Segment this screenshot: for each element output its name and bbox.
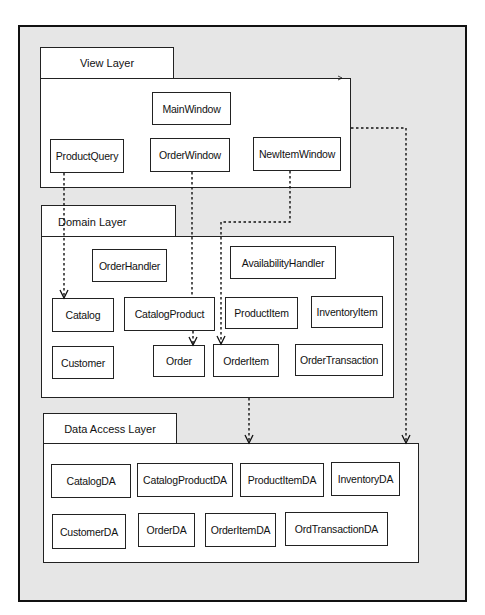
class-product-item-da[interactable]: ProductItemDA <box>240 463 324 497</box>
class-new-item-window[interactable]: NewItemWindow <box>253 137 341 171</box>
class-main-window[interactable]: MainWindow <box>152 92 231 125</box>
class-order-item[interactable]: OrderItem <box>213 344 279 377</box>
view-layer-tab: View Layer <box>40 47 174 79</box>
class-customer[interactable]: Customer <box>52 346 114 379</box>
class-catalog-product-da[interactable]: CatalogProductDA <box>137 463 233 497</box>
data-access-layer-tab: Data Access Layer <box>43 413 177 445</box>
class-ord-transaction-da[interactable]: OrdTransactionDA <box>285 512 388 546</box>
class-order-window[interactable]: OrderWindow <box>150 138 230 172</box>
class-product-item[interactable]: ProductItem <box>225 297 298 329</box>
domain-layer-tab: Domain Layer <box>41 205 176 238</box>
class-inventory-da[interactable]: InventoryDA <box>331 462 400 496</box>
class-order-da[interactable]: OrderDA <box>138 513 195 547</box>
class-catalog[interactable]: Catalog <box>52 298 114 332</box>
class-availability-handler[interactable]: AvailabilityHandler <box>230 246 336 279</box>
class-product-query[interactable]: ProductQuery <box>50 139 124 173</box>
class-order-handler[interactable]: OrderHandler <box>92 249 167 282</box>
class-inventory-item[interactable]: InventoryItem <box>311 296 383 328</box>
class-order-item-da[interactable]: OrderItemDA <box>205 513 276 547</box>
class-order[interactable]: Order <box>153 345 205 377</box>
class-customer-da[interactable]: CustomerDA <box>52 514 126 549</box>
class-order-transaction[interactable]: OrderTransaction <box>295 344 383 376</box>
class-catalog-da[interactable]: CatalogDA <box>51 464 131 498</box>
class-catalog-product[interactable]: CatalogProduct <box>124 297 215 331</box>
